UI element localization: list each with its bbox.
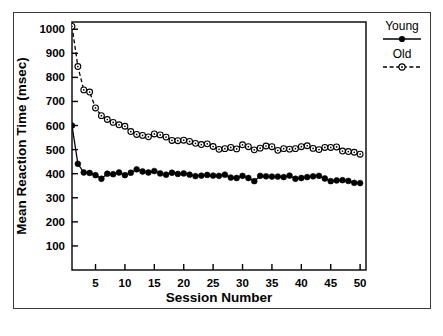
- y-tick-label: 200: [46, 216, 65, 228]
- data-point-center: [336, 146, 338, 148]
- data-point: [116, 170, 122, 176]
- data-point: [228, 175, 234, 181]
- data-point-center: [195, 143, 197, 145]
- data-point: [345, 178, 351, 184]
- data-point: [104, 171, 110, 177]
- data-series-group: [69, 23, 363, 186]
- data-point: [246, 175, 252, 181]
- data-point-center: [136, 134, 138, 136]
- data-point-center: [353, 151, 355, 153]
- data-point: [81, 170, 87, 176]
- data-point: [287, 173, 293, 179]
- x-tick-label: 20: [177, 277, 190, 289]
- data-point-center: [259, 147, 261, 149]
- data-point: [263, 173, 269, 179]
- data-point: [87, 170, 93, 176]
- data-point: [304, 174, 310, 180]
- data-point-center: [230, 147, 232, 149]
- data-point-center: [77, 66, 79, 68]
- data-point: [187, 172, 193, 178]
- data-point-center: [165, 136, 167, 138]
- data-point-center: [306, 145, 308, 147]
- data-point-center: [348, 151, 350, 153]
- data-point: [175, 171, 181, 177]
- y-tick-label: 400: [46, 168, 65, 180]
- series-line: [72, 26, 360, 154]
- legend-label-young[interactable]: Young: [385, 19, 419, 33]
- data-point: [351, 180, 357, 186]
- series-old: [69, 23, 363, 157]
- data-point-center: [289, 148, 291, 150]
- y-tick-label: 600: [46, 120, 65, 132]
- x-tick-label: 40: [295, 277, 308, 289]
- data-point-center: [295, 148, 297, 150]
- data-point-center: [312, 148, 314, 150]
- data-point-center: [218, 149, 220, 151]
- data-point-center: [130, 131, 132, 133]
- x-tick-label: 35: [266, 277, 279, 289]
- legend-marker-filled-circle-icon: [399, 36, 405, 42]
- legend-marker-center: [401, 66, 403, 68]
- data-point: [334, 178, 340, 184]
- data-point: [134, 166, 140, 172]
- data-point-center: [177, 140, 179, 142]
- data-point-center: [212, 146, 214, 148]
- data-point-center: [159, 134, 161, 136]
- data-point: [93, 172, 99, 178]
- data-point-center: [253, 149, 255, 151]
- data-point-center: [148, 136, 150, 138]
- x-axis-title: Session Number: [166, 290, 273, 305]
- data-point: [110, 171, 116, 177]
- y-tick-label: 500: [46, 144, 65, 156]
- data-point: [257, 173, 263, 179]
- x-tick-label: 50: [354, 277, 367, 289]
- data-point-center: [300, 146, 302, 148]
- data-point: [198, 173, 204, 179]
- legend-label-old[interactable]: Old: [393, 47, 412, 61]
- data-point-center: [201, 144, 203, 146]
- data-point-center: [124, 125, 126, 127]
- x-axis: 5101520253035404550: [92, 264, 366, 289]
- y-tick-label: 800: [46, 71, 65, 83]
- y-axis-title: Mean Reaction Time (msec): [14, 57, 29, 235]
- data-point-center: [183, 139, 185, 141]
- data-point: [240, 173, 246, 179]
- legend: YoungOld: [383, 19, 421, 70]
- data-point-center: [224, 148, 226, 150]
- data-point-center: [189, 141, 191, 143]
- y-tick-label: 300: [46, 192, 65, 204]
- data-point: [193, 173, 199, 179]
- data-point: [281, 174, 287, 180]
- data-point-center: [236, 148, 238, 150]
- data-point: [128, 170, 134, 176]
- data-point-center: [242, 144, 244, 146]
- data-point-center: [271, 146, 273, 148]
- data-point: [310, 173, 316, 179]
- data-point-center: [265, 145, 267, 147]
- data-point: [169, 170, 175, 176]
- data-point: [222, 172, 228, 178]
- y-tick-label: 700: [46, 95, 65, 107]
- data-point: [216, 173, 222, 179]
- data-point: [298, 175, 304, 181]
- data-point: [122, 172, 128, 178]
- data-point: [151, 168, 157, 174]
- data-point-center: [118, 124, 120, 126]
- x-tick-label: 10: [119, 277, 132, 289]
- data-point: [146, 170, 152, 176]
- data-point: [210, 173, 216, 179]
- data-point-center: [324, 147, 326, 149]
- data-point: [293, 176, 299, 182]
- data-point-center: [277, 149, 279, 151]
- data-point-center: [106, 119, 108, 121]
- data-point: [316, 173, 322, 179]
- y-tick-label: 1000: [39, 23, 65, 35]
- data-point: [181, 171, 187, 177]
- x-tick-label: 15: [148, 277, 161, 289]
- data-point-center: [283, 148, 285, 150]
- data-point: [340, 177, 346, 183]
- data-point-center: [153, 133, 155, 135]
- y-tick-label: 900: [46, 47, 65, 59]
- data-point-center: [101, 115, 103, 117]
- data-point-center: [142, 135, 144, 137]
